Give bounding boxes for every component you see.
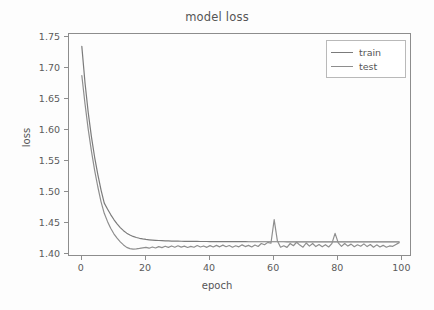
legend-label-train: train <box>359 47 381 58</box>
legend-swatch-test <box>331 66 353 67</box>
y-tick-label: 1.70 <box>26 62 60 73</box>
legend-swatch-train <box>331 52 353 53</box>
line-series-test <box>82 76 399 250</box>
legend-item-test: test <box>331 59 400 73</box>
y-tick-label: 1.75 <box>26 31 60 42</box>
legend-item-train: train <box>331 45 400 59</box>
x-tick-label: 80 <box>320 262 354 273</box>
y-tick-label: 1.50 <box>26 185 60 196</box>
x-axis-tick-labels: 020406080100 <box>0 262 434 280</box>
y-tick-label: 1.45 <box>26 216 60 227</box>
legend-box: train test <box>326 40 406 78</box>
legend-label-test: test <box>359 61 377 72</box>
x-tick-label: 0 <box>64 262 98 273</box>
y-tick-label: 1.60 <box>26 124 60 135</box>
x-tick-label: 20 <box>128 262 162 273</box>
x-tick-label: 40 <box>192 262 226 273</box>
figure-canvas: model loss loss epoch 1.401.451.501.551.… <box>0 0 434 310</box>
y-tick-label: 1.65 <box>26 93 60 104</box>
y-tick-label: 1.55 <box>26 154 60 165</box>
x-tick-label: 100 <box>384 262 418 273</box>
x-tick-label: 60 <box>256 262 290 273</box>
